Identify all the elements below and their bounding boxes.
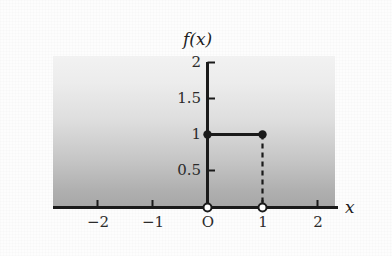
x-tick-label-minus2: −2 [72,215,124,230]
y-tick-label-1p5: 1.5 [152,91,201,106]
open-point-origin-marker [204,204,212,212]
x-tick-label-minus1: −1 [127,215,179,230]
closed-point-left-marker [203,130,211,138]
y-tick-label-1: 1 [165,127,201,142]
x-tick-label-one: 1 [237,215,289,230]
y-axis-title: f(x) [183,31,212,48]
x-axis-title: x [345,199,355,216]
y-tick-label-2: 2 [165,55,201,70]
y-tick-label-0p5: 0.5 [152,163,201,178]
x-tick-label-origin: O [200,215,216,230]
closed-point-right-marker [258,130,266,138]
x-tick-label-two: 2 [292,215,344,230]
open-point-one-marker [259,204,267,212]
figure-container: f(x) x 2 1.5 1 0.5 −2 −1 O 1 2 [0,0,392,256]
